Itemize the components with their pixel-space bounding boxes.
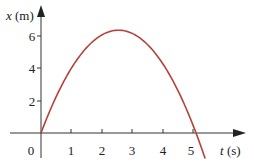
x-tick-label-4: 4: [160, 143, 167, 158]
y-tick-label-2: 2: [29, 94, 36, 109]
position-time-chart: 0 1 2 3 4 5 2 4 6 x (m) t (s): [0, 0, 254, 165]
x-axis-unit: (s): [227, 143, 241, 158]
y-ticks: [37, 36, 41, 101]
x-ticks: [71, 129, 193, 133]
y-axis-var: x: [5, 8, 12, 23]
position-curve: [41, 30, 205, 158]
y-tick-label-4: 4: [29, 61, 36, 76]
y-axis-arrow-icon: [37, 5, 45, 17]
x-tick-label-3: 3: [129, 143, 136, 158]
x-tick-label-5: 5: [188, 143, 195, 158]
x-tick-label-2: 2: [99, 143, 106, 158]
x-tick-label-0: 0: [28, 143, 35, 158]
x-axis-label: t (s): [220, 143, 241, 158]
y-tick-label-6: 6: [29, 29, 36, 44]
x-axis-var: t: [220, 143, 224, 158]
y-axis-unit: (m): [15, 8, 34, 23]
x-axis-arrow-icon: [233, 129, 246, 137]
y-axis-label: x (m): [5, 8, 34, 23]
x-tick-label-1: 1: [68, 143, 75, 158]
